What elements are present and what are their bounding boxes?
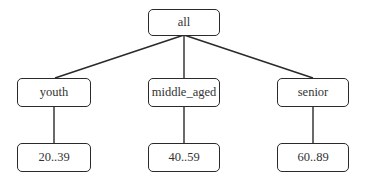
node-label: senior [298,85,329,100]
node-range-youth: 20..39 [17,143,91,172]
node-middle-aged: middle_aged [148,78,220,107]
node-youth: youth [17,78,91,107]
node-range-middle-aged: 40..59 [148,143,220,172]
edge-all-youth [55,35,184,78]
node-label: 40..59 [168,150,199,165]
node-label: 60..89 [297,150,328,165]
node-label: 20..39 [38,150,69,165]
concept-hierarchy-diagram: all youth middle_aged senior 20..39 40..… [0,0,368,183]
node-range-senior: 60..89 [277,143,349,172]
node-senior: senior [277,78,349,107]
node-label: middle_aged [152,85,217,100]
node-label: all [178,15,191,30]
edge-all-senior [184,35,313,78]
node-root-all: all [148,9,220,36]
node-label: youth [40,85,68,100]
